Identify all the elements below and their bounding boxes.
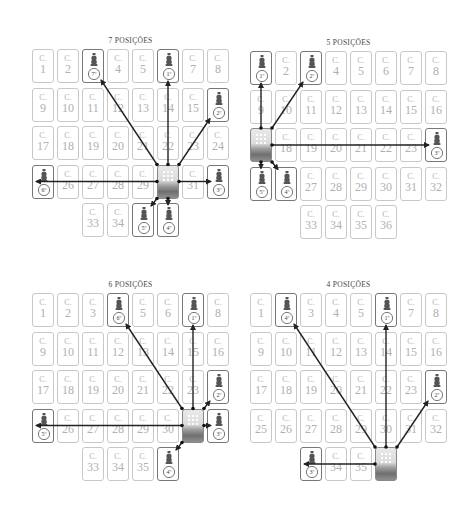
- card-number: 17: [33, 384, 53, 397]
- card-number: 18: [58, 384, 78, 397]
- card-number: 23: [401, 384, 421, 397]
- card-number: 19: [301, 384, 321, 397]
- card: C. 14: [157, 88, 179, 122]
- card-number: 30: [158, 423, 178, 436]
- svg-text:3º: 3º: [217, 431, 222, 437]
- card-number: 4: [326, 65, 346, 78]
- card-number: 33: [83, 461, 103, 474]
- panel-title: 6 POSIÇÕES: [31, 280, 231, 289]
- card-number: 10: [58, 346, 78, 359]
- card: C. 5: [350, 51, 372, 85]
- pawn-icon: 4º: [158, 204, 180, 238]
- pawn-icon: 5º: [33, 410, 55, 444]
- card: C. 34: [107, 447, 129, 481]
- svg-text:6º: 6º: [117, 315, 122, 321]
- piece-card: 2º: [425, 370, 447, 404]
- card-number: 28: [108, 423, 128, 436]
- svg-text:3º: 3º: [435, 150, 440, 156]
- piece-card: 3º: [207, 165, 229, 199]
- svg-text:6º: 6º: [42, 187, 47, 193]
- card: C. 15: [182, 88, 204, 122]
- card-number: 13: [351, 346, 371, 359]
- card: C. 18: [57, 370, 79, 404]
- piece-card: 1º: [375, 293, 397, 327]
- card: C. 5: [350, 293, 372, 327]
- card: C. 7: [182, 49, 204, 83]
- svg-text:4º: 4º: [167, 469, 172, 475]
- card-number: 14: [158, 102, 178, 115]
- card: C. 28: [107, 165, 129, 199]
- svg-text:1º: 1º: [260, 73, 265, 79]
- card-number: 35: [133, 461, 153, 474]
- card: C. 29: [350, 409, 372, 443]
- card: C. 28: [325, 409, 347, 443]
- card-number: 34: [108, 217, 128, 230]
- deck-card: [375, 447, 397, 481]
- card-number: 1: [33, 307, 53, 320]
- card-number: 8: [426, 65, 446, 78]
- card: C. 1: [250, 293, 272, 327]
- svg-text:3º: 3º: [310, 469, 315, 475]
- card-number: 12: [108, 346, 128, 359]
- card-number: 29: [351, 181, 371, 194]
- piece-card: 2º: [207, 88, 229, 122]
- piece-card: 2º: [207, 370, 229, 404]
- card-number: 9: [33, 102, 53, 115]
- pawn-icon: 1º: [183, 294, 205, 328]
- card-number: 20: [108, 140, 128, 153]
- deck-pattern: [380, 452, 393, 465]
- card: C. 10: [275, 90, 297, 124]
- card: C. 26: [57, 165, 79, 199]
- card-number: 35: [351, 219, 371, 232]
- card: C. 30: [375, 409, 397, 443]
- card: C. 35: [350, 205, 372, 239]
- card: C. 18: [275, 128, 297, 162]
- piece-card: 4º: [275, 167, 297, 201]
- card-number: 25: [251, 423, 271, 436]
- card: C. 21: [132, 370, 154, 404]
- svg-text:5º: 5º: [260, 189, 265, 195]
- card-number: 7: [183, 63, 203, 76]
- card: C. 31: [400, 167, 422, 201]
- card: C. 22: [157, 126, 179, 160]
- card: C. 35: [132, 447, 154, 481]
- card: C. 16: [425, 332, 447, 366]
- card: C. 4: [325, 293, 347, 327]
- pawn-icon: 6º: [108, 294, 130, 328]
- deck-card: [250, 128, 272, 162]
- card: C. 5: [132, 293, 154, 327]
- card-number: 23: [401, 142, 421, 155]
- card: C. 20: [107, 126, 129, 160]
- pawn-icon: 3º: [301, 448, 323, 482]
- card: C. 32: [425, 409, 447, 443]
- card-number: 22: [158, 384, 178, 397]
- piece-card: 5º: [32, 409, 54, 443]
- card: C. 25: [250, 409, 272, 443]
- card: C. 19: [300, 128, 322, 162]
- card: C. 6: [375, 51, 397, 85]
- card: C. 9: [250, 90, 272, 124]
- card: C. 12: [107, 88, 129, 122]
- card: C. 14: [375, 90, 397, 124]
- card: C. 29: [350, 167, 372, 201]
- card-number: 31: [183, 179, 203, 192]
- card: C. 1: [32, 49, 54, 83]
- pawn-icon: 5º: [133, 204, 155, 238]
- card-number: 21: [133, 140, 153, 153]
- card-number: 9: [33, 346, 53, 359]
- card-number: 15: [401, 104, 421, 117]
- piece-card: 4º: [157, 447, 179, 481]
- piece-card: 1º: [157, 49, 179, 83]
- pawn-icon: 1º: [158, 50, 180, 84]
- piece-card: 3º: [207, 409, 229, 443]
- card: C. 36: [375, 205, 397, 239]
- card: C. 21: [132, 126, 154, 160]
- card: C. 34: [325, 205, 347, 239]
- card-number: 29: [351, 423, 371, 436]
- card-number: 17: [33, 140, 53, 153]
- card: C. 10: [275, 332, 297, 366]
- card-number: 29: [133, 179, 153, 192]
- card-number: 19: [301, 142, 321, 155]
- svg-text:4º: 4º: [285, 315, 290, 321]
- card-number: 7: [401, 307, 421, 320]
